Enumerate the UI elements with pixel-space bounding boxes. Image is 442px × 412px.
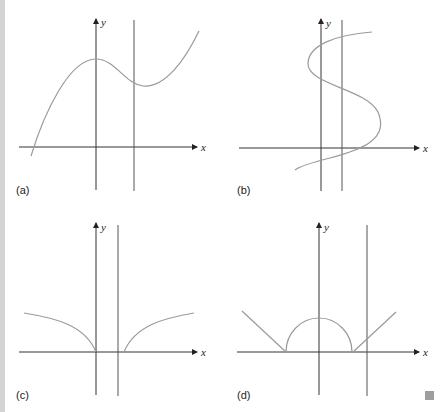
figure-canvas: y x (a) y x (b) y x (c) y x (d) bbox=[0, 0, 442, 412]
x-axis-label: x bbox=[200, 141, 206, 153]
end-of-section-marker bbox=[425, 391, 434, 400]
y-axis-label: y bbox=[100, 221, 106, 233]
y-axis-label: y bbox=[323, 221, 329, 233]
panel-a: y x (a) bbox=[16, 16, 206, 196]
graph-curve bbox=[31, 31, 199, 156]
panel-b: y x (b) bbox=[237, 17, 428, 196]
panel-label: (a) bbox=[16, 184, 29, 196]
graph-line-left bbox=[242, 311, 286, 352]
x-axis-label: x bbox=[422, 142, 428, 154]
graph-curve-left bbox=[24, 313, 96, 352]
graph-line-right bbox=[353, 312, 396, 352]
x-axis-label: x bbox=[200, 346, 206, 358]
panel-d: y x (d) bbox=[237, 221, 428, 401]
panel-label: (d) bbox=[237, 389, 250, 401]
panel-c: y x (c) bbox=[16, 221, 206, 401]
y-axis-label: y bbox=[100, 16, 106, 28]
y-axis-label: y bbox=[325, 17, 331, 29]
panel-label: (c) bbox=[16, 389, 29, 401]
graph-curve bbox=[295, 32, 381, 170]
panel-label: (b) bbox=[237, 184, 250, 196]
graph-curve-right bbox=[124, 313, 194, 352]
x-axis-label: x bbox=[422, 346, 428, 358]
